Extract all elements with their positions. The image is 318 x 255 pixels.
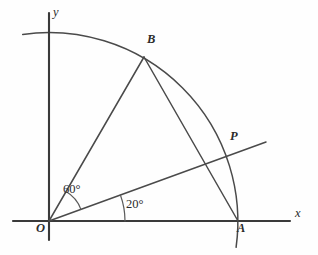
segment-ba bbox=[144, 57, 238, 221]
label-point-b: B bbox=[147, 33, 155, 46]
label-angle-20: 20° bbox=[126, 198, 144, 211]
angle-marker-20 bbox=[120, 195, 125, 221]
label-axis-x: x bbox=[295, 207, 301, 220]
label-point-o: O bbox=[36, 222, 45, 235]
label-point-a: A bbox=[237, 222, 245, 235]
label-axis-y: y bbox=[53, 6, 59, 19]
circle-arc bbox=[23, 33, 238, 248]
diagram-canvas bbox=[0, 0, 318, 255]
label-point-p: P bbox=[230, 130, 238, 143]
geometry-diagram: O A B P x y 60° 20° bbox=[0, 0, 318, 255]
label-angle-60: 60° bbox=[63, 183, 81, 196]
